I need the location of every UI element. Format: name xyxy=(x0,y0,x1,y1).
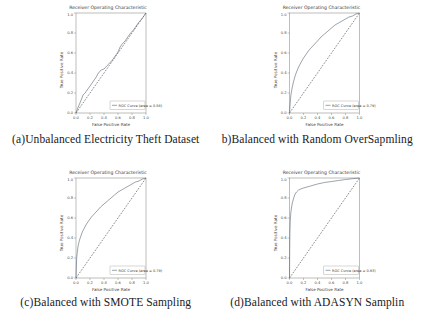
legend-b: ROC Curve (area = 0.79) xyxy=(323,101,376,110)
chart-title-a: Receiver Operating Characteristic xyxy=(69,5,147,10)
y-axis-label-d: True Positive Rate xyxy=(272,214,277,252)
svg-text:1.0: 1.0 xyxy=(356,281,363,285)
y-tick-labels-b: 0.0 0.2 0.4 0.6 0.8 1.0 xyxy=(280,13,287,116)
x-axis-label-d: False Positive Rate xyxy=(305,287,344,292)
roc-plot-b: Receiver Operating Characteristic True P… xyxy=(212,0,423,138)
chance-diagonal-b xyxy=(289,13,359,113)
svg-text:0.4: 0.4 xyxy=(101,281,108,285)
svg-text:0.6: 0.6 xyxy=(328,116,335,120)
figure-panel-b: Receiver Operating Characteristic True P… xyxy=(212,0,423,163)
chart-title-d: Receiver Operating Characteristic xyxy=(282,170,360,175)
svg-text:0.2: 0.2 xyxy=(280,256,286,260)
svg-text:0.0: 0.0 xyxy=(280,111,287,115)
svg-text:0.2: 0.2 xyxy=(300,281,306,285)
svg-text:1.0: 1.0 xyxy=(67,13,74,17)
svg-text:1.0: 1.0 xyxy=(280,177,287,181)
chance-diagonal-a xyxy=(76,13,146,113)
svg-text:0.8: 0.8 xyxy=(280,31,287,35)
legend-label-d: ROC Curve (area = 0.93) xyxy=(332,268,376,272)
figure-panel-c: Receiver Operating Characteristic True P… xyxy=(0,163,212,325)
svg-text:0.6: 0.6 xyxy=(280,216,287,220)
legend-a: ROC Curve (area = 0.56) xyxy=(110,101,163,110)
panel-caption-a: (a)Unbalanced Electricity Theft Dataset xyxy=(0,133,212,145)
chart-title-c: Receiver Operating Characteristic xyxy=(69,170,147,175)
y-axis-label-c: True Positive Rate xyxy=(59,214,64,252)
svg-text:1.0: 1.0 xyxy=(143,116,150,120)
x-tick-labels-a: 0.0 0.2 0.4 0.6 0.8 1.0 xyxy=(73,116,150,120)
svg-text:0.4: 0.4 xyxy=(280,71,287,75)
chart-title-b: Receiver Operating Characteristic xyxy=(282,5,360,10)
svg-text:0.8: 0.8 xyxy=(342,281,349,285)
svg-text:0.4: 0.4 xyxy=(314,116,321,120)
svg-text:0.6: 0.6 xyxy=(67,51,74,55)
figure-panel-a: Receiver Operating Characteristic True P… xyxy=(0,0,212,163)
svg-text:0.0: 0.0 xyxy=(67,276,74,280)
svg-text:0.8: 0.8 xyxy=(67,196,74,200)
x-axis-label-c: False Positive Rate xyxy=(92,287,131,292)
svg-text:0.2: 0.2 xyxy=(67,256,73,260)
svg-text:0.6: 0.6 xyxy=(115,281,122,285)
roc-chart-b-svg: Receiver Operating Characteristic True P… xyxy=(212,0,423,138)
svg-text:0.8: 0.8 xyxy=(280,196,287,200)
roc-chart-c-svg: Receiver Operating Characteristic True P… xyxy=(0,163,212,301)
legend-label-a: ROC Curve (area = 0.56) xyxy=(119,104,163,108)
svg-text:0.6: 0.6 xyxy=(67,216,74,220)
roc-plot-c: Receiver Operating Characteristic True P… xyxy=(0,163,212,301)
x-axis-label-a: False Positive Rate xyxy=(92,122,131,127)
svg-text:0.4: 0.4 xyxy=(67,236,74,240)
x-tick-labels-b: 0.0 0.2 0.4 0.6 0.8 1.0 xyxy=(286,116,363,120)
legend-d: ROC Curve (area = 0.93) xyxy=(323,266,376,275)
legend-label-b: ROC Curve (area = 0.79) xyxy=(332,104,376,108)
svg-text:0.6: 0.6 xyxy=(280,51,287,55)
svg-text:0.0: 0.0 xyxy=(280,276,287,280)
x-axis-label-b: False Positive Rate xyxy=(305,122,344,127)
svg-text:0.8: 0.8 xyxy=(67,31,74,35)
figure-panel-d: Receiver Operating Characteristic True P… xyxy=(212,163,423,325)
svg-text:0.8: 0.8 xyxy=(129,281,136,285)
svg-text:0.0: 0.0 xyxy=(73,116,80,120)
svg-text:1.0: 1.0 xyxy=(67,177,74,181)
roc-chart-a-svg: Receiver Operating Characteristic True P… xyxy=(0,0,212,138)
roc-chart-d-svg: Receiver Operating Characteristic True P… xyxy=(212,163,423,301)
legend-label-c: ROC Curve (area = 0.79) xyxy=(119,268,163,272)
svg-text:0.8: 0.8 xyxy=(129,116,136,120)
y-tick-labels-c: 0.0 0.2 0.4 0.6 0.8 1.0 xyxy=(67,177,74,280)
y-tick-labels-a: 0.0 0.2 0.4 0.6 0.8 1.0 xyxy=(67,13,74,116)
svg-text:0.2: 0.2 xyxy=(67,91,73,95)
svg-text:0.4: 0.4 xyxy=(67,71,74,75)
roc-plot-a: Receiver Operating Characteristic True P… xyxy=(0,0,212,138)
svg-text:0.8: 0.8 xyxy=(342,116,349,120)
svg-text:0.0: 0.0 xyxy=(67,111,74,115)
svg-text:0.6: 0.6 xyxy=(115,116,122,120)
svg-text:0.2: 0.2 xyxy=(87,116,93,120)
legend-c: ROC Curve (area = 0.79) xyxy=(110,266,163,275)
roc-plot-d: Receiver Operating Characteristic True P… xyxy=(212,163,423,301)
panel-caption-c: (c)Balanced with SMOTE Sampling xyxy=(0,296,212,308)
svg-text:0.4: 0.4 xyxy=(314,281,321,285)
svg-text:0.0: 0.0 xyxy=(286,281,293,285)
svg-text:0.6: 0.6 xyxy=(328,281,335,285)
svg-text:1.0: 1.0 xyxy=(143,281,150,285)
y-axis-label-a: True Positive Rate xyxy=(59,51,64,89)
x-tick-labels-d: 0.0 0.2 0.4 0.6 0.8 1.0 xyxy=(286,281,363,285)
figure-panel-grid: Receiver Operating Characteristic True P… xyxy=(0,0,423,325)
svg-text:0.2: 0.2 xyxy=(300,116,306,120)
svg-text:1.0: 1.0 xyxy=(356,116,363,120)
panel-caption-d: (d)Balanced with ADASYN Samplin xyxy=(212,296,423,308)
panel-caption-b: b)Balanced with Random OverSapmling xyxy=(212,133,423,145)
svg-text:0.2: 0.2 xyxy=(280,91,286,95)
svg-text:1.0: 1.0 xyxy=(280,13,287,17)
x-tick-labels-c: 0.0 0.2 0.4 0.6 0.8 1.0 xyxy=(73,281,150,285)
y-tick-labels-d: 0.0 0.2 0.4 0.6 0.8 1.0 xyxy=(280,177,287,280)
svg-text:0.0: 0.0 xyxy=(73,281,80,285)
svg-text:0.4: 0.4 xyxy=(280,236,287,240)
chance-diagonal-d xyxy=(289,178,359,278)
y-axis-label-b: True Positive Rate xyxy=(272,51,277,89)
svg-text:0.4: 0.4 xyxy=(101,116,108,120)
svg-text:0.0: 0.0 xyxy=(286,116,293,120)
svg-text:0.2: 0.2 xyxy=(87,281,93,285)
chance-diagonal-c xyxy=(76,178,146,278)
